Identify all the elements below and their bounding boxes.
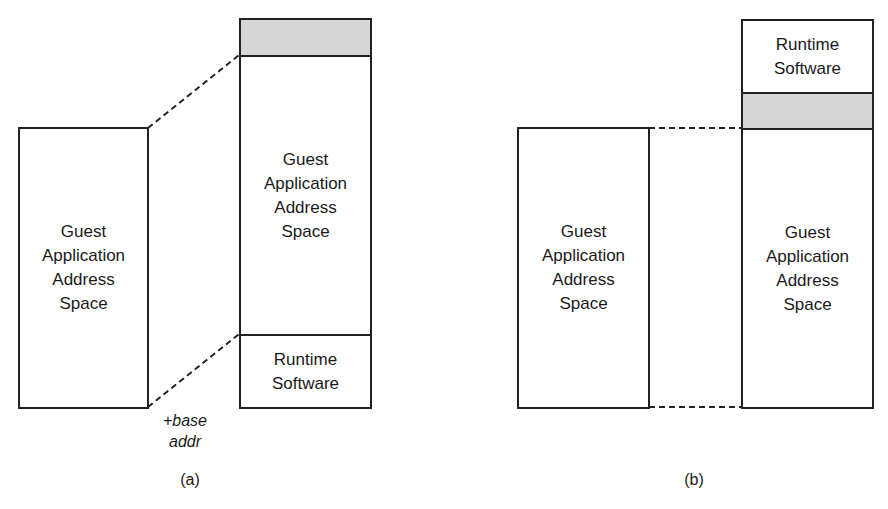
a-caption: (a) [170,471,210,489]
a-host-guest-label: Guest Application Address Space [264,148,347,244]
b-guest-address-space: Guest Application Address Space [517,127,650,409]
b-reserved-region [741,92,874,130]
a-guest-address-space: Guest Application Address Space [18,127,149,409]
a-offset-label: +base addr [160,410,210,452]
b-host-guest-region: Guest Application Address Space [741,128,874,409]
a-runtime-region: Runtime Software [239,334,372,409]
b-guest-label: Guest Application Address Space [542,220,625,316]
b-host-guest-label: Guest Application Address Space [766,221,849,317]
a-host-guest-region: Guest Application Address Space [239,55,372,336]
a-guest-label: Guest Application Address Space [42,220,125,316]
b-runtime-region: Runtime Software [741,19,874,94]
a-reserved-region [239,18,372,57]
a-runtime-label: Runtime Software [272,348,339,396]
b-runtime-label: Runtime Software [774,33,841,81]
b-caption: (b) [674,471,714,489]
